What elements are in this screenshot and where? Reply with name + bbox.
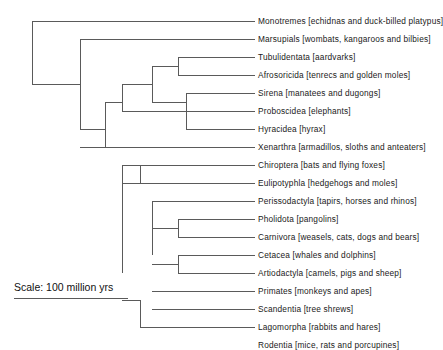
taxon-label-lagomorpha: Lagomorpha [rabbits and hares] [258, 323, 381, 331]
taxon-label-sirena: Sirena [manatees and dugongs] [258, 89, 380, 97]
taxon-label-tubulidentata: Tubulidentata [aardvarks] [258, 53, 355, 61]
taxon-label-eulipotyphla: Eulipotyphla [hedgehogs and moles] [258, 179, 397, 187]
taxon-label-xenarthra: Xenarthra [armadillos, sloths and anteat… [258, 143, 426, 151]
taxon-label-primates: Primates [monkeys and apes] [258, 287, 372, 295]
taxon-label-cetacea: Cetacea [whales and dolphins] [258, 251, 376, 259]
taxon-label-hyracidea: Hyracidea [hyrax] [258, 125, 325, 133]
taxon-label-marsupials: Marsupials [wombats, kangaroos and bilbi… [258, 35, 431, 43]
taxon-label-perissodactyla: Perissodactyla [tapirs, horses and rhino… [258, 197, 417, 205]
taxon-label-carnivora: Carnivora [weasels, cats, dogs and bears… [258, 233, 419, 241]
taxon-label-afrosoricida: Afrosoricida [tenrecs and golden moles] [258, 71, 410, 79]
taxon-label-scandentia: Scandentia [tree shrews] [258, 305, 353, 313]
taxon-label-proboscidea: Proboscidea [elephants] [258, 107, 351, 115]
taxon-label-pholidota: Pholidota [pangolins] [258, 215, 339, 223]
scale-bar-label: Scale: 100 million yrs [14, 281, 113, 293]
taxon-label-chiroptera: Chiroptera [bats and flying foxes] [258, 161, 385, 169]
taxon-label-monotremes: Monotremes [echidnas and duck-billed pla… [258, 17, 443, 25]
taxon-label-rodentia: Rodentia [mice, rats and porcupines] [258, 341, 399, 349]
scale-bar-line [14, 298, 128, 299]
taxon-label-artiodactyla: Artiodactyla [camels, pigs and sheep] [258, 269, 402, 277]
